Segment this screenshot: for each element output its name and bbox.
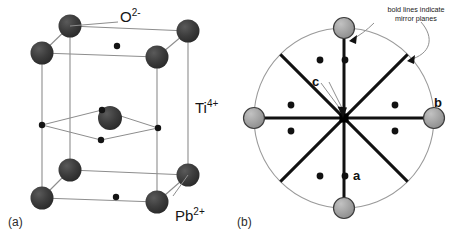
oxygen-charge: 2- (132, 7, 141, 18)
lead-label: Pb2+ (175, 208, 205, 223)
mirror-plane-drawing (235, 0, 469, 245)
gray-sphere-bottom (334, 198, 355, 219)
lead-symbol: Pb (175, 207, 193, 224)
oxygen-symbol: O (120, 8, 132, 25)
gray-sphere-top (334, 18, 355, 39)
gray-sphere-right (424, 108, 445, 129)
panel-b-tag: (b) (237, 216, 252, 228)
axis-label-b: b (434, 96, 442, 109)
figure-root: O2- Ti4+ Pb2+ (a) (0, 0, 469, 245)
label-leader-lines (70, 22, 188, 196)
note-arrowhead-right (407, 55, 415, 64)
axis-label-a: a (353, 169, 360, 182)
panel-a-unit-cell: O2- Ti4+ Pb2+ (a) (0, 0, 235, 245)
gray-sphere-left (244, 108, 265, 129)
panel-b-mirror-planes: bold lines indicate mirror planes c b a … (235, 0, 469, 245)
panel-a-tag: (a) (8, 216, 23, 228)
titanium-charge: 4+ (207, 98, 218, 109)
mirror-plane-note: bold lines indicate mirror planes (368, 5, 464, 23)
oxygen-label: O2- (120, 9, 141, 24)
lead-charge: 2+ (193, 206, 204, 217)
titanium-symbol: Ti (195, 99, 207, 116)
titanium-label: Ti4+ (195, 100, 218, 115)
axis-label-c: c (312, 75, 319, 88)
